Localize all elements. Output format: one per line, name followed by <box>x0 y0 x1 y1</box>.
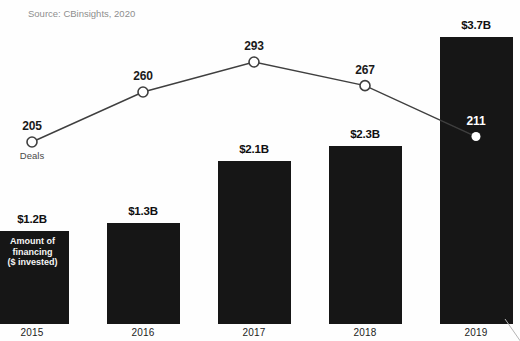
deals-value-label-2019: 211 <box>446 114 506 128</box>
x-tick-2019: 2019 <box>446 327 506 338</box>
financing-series-label-line2: financing <box>0 247 69 258</box>
financing-series-label-line1: Amount of <box>0 236 69 247</box>
x-tick-2015: 2015 <box>2 327 62 338</box>
bar-value-label-2017: $2.1B <box>219 143 289 155</box>
deals-marker-2018 <box>360 81 370 91</box>
page-curl-artifact <box>505 319 520 341</box>
deals-series-label: Deals <box>2 150 62 161</box>
deals-marker-2015 <box>27 137 37 147</box>
x-tick-2018: 2018 <box>335 327 395 338</box>
bar-value-label-2015: $1.2B <box>0 213 67 225</box>
deals-value-label-2015: 205 <box>2 119 62 133</box>
bar-value-label-2016: $1.3B <box>108 205 178 217</box>
financing-series-label: Amount of financing ($ invested) <box>0 236 69 268</box>
financing-series-label-line3: ($ invested) <box>0 257 69 268</box>
deals-marker-2019 <box>472 132 481 141</box>
deals-marker-2017 <box>249 57 259 67</box>
deals-value-label-2018: 267 <box>335 63 395 77</box>
x-tick-2017: 2017 <box>224 327 284 338</box>
bar-value-label-2018: $2.3B <box>330 128 400 140</box>
deals-line <box>32 62 476 142</box>
chart-figure: OF THE RETAIL TECH COMPANY DEALS AND FIN… <box>0 0 520 341</box>
deals-value-label-2016: 260 <box>113 69 173 83</box>
deals-value-label-2017: 293 <box>224 39 284 53</box>
bar-value-label-2019: $3.7B <box>441 19 511 31</box>
x-tick-2016: 2016 <box>113 327 173 338</box>
deals-marker-2016 <box>138 87 148 97</box>
